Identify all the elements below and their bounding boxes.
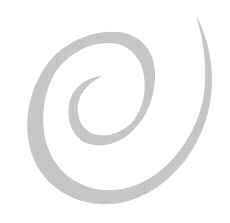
spiral-illustration: [0, 0, 230, 223]
spiral-icon: [0, 0, 230, 223]
spiral-shape: [27, 16, 212, 204]
